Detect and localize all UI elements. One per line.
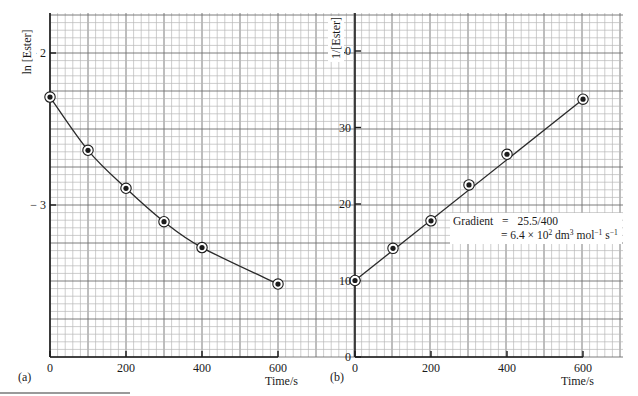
panel-b-y-axis-label: 1/[Ester] (329, 17, 343, 59)
data-point-dot (466, 182, 471, 187)
data-point-dot (390, 246, 395, 251)
x-tick-label: 400 (193, 361, 211, 375)
x-tick-label: 0 (352, 361, 358, 375)
gradient-label: Gradient = 25.5/400 (453, 215, 558, 227)
x-tick-label: 0 (47, 361, 53, 375)
panel-a-x-axis-label: Time/s (265, 374, 298, 388)
x-tick-label: 600 (269, 361, 287, 375)
y-tick-label: 0 (345, 350, 351, 364)
x-tick-label: 400 (498, 361, 516, 375)
data-point-dot (504, 152, 509, 157)
y-tick-label: 30 (339, 121, 351, 135)
graph-paper-grid (50, 13, 623, 357)
y-tick-label: − 3 (30, 198, 46, 212)
y-tick-label: 10 (339, 274, 351, 288)
data-point-dot (275, 281, 280, 286)
chart-canvas: 0200400600− 2− 3 ln [Ester] Time/s (a) 0… (0, 0, 638, 396)
panel-a-label: (a) (18, 370, 31, 384)
panel-b-x-axis-label: Time/s (561, 374, 594, 388)
panel-b-label: (b) (330, 370, 344, 384)
panel-a-tick-labels: 0200400600− 2− 3 (30, 46, 287, 375)
data-point-dot (123, 186, 128, 191)
figure: 0200400600− 2− 3 ln [Ester] Time/s (a) 0… (0, 0, 638, 396)
data-point-dot (580, 97, 585, 102)
footnote-rule (0, 392, 130, 394)
x-tick-label: 200 (117, 361, 135, 375)
panel-a-ln-ester-plot: 0200400600− 2− 3 ln [Ester] Time/s (a) (18, 13, 298, 388)
data-point-dot (428, 218, 433, 223)
y-tick-label: 20 (339, 197, 351, 211)
data-point-dot (85, 148, 90, 153)
data-point-dot (199, 245, 204, 250)
panel-a-y-axis-label: ln [Ester] (20, 30, 34, 75)
data-point-dot (161, 219, 166, 224)
data-point-dot (47, 94, 52, 99)
x-tick-label: 600 (574, 361, 592, 375)
x-tick-label: 200 (422, 361, 440, 375)
data-point-dot (352, 278, 357, 283)
